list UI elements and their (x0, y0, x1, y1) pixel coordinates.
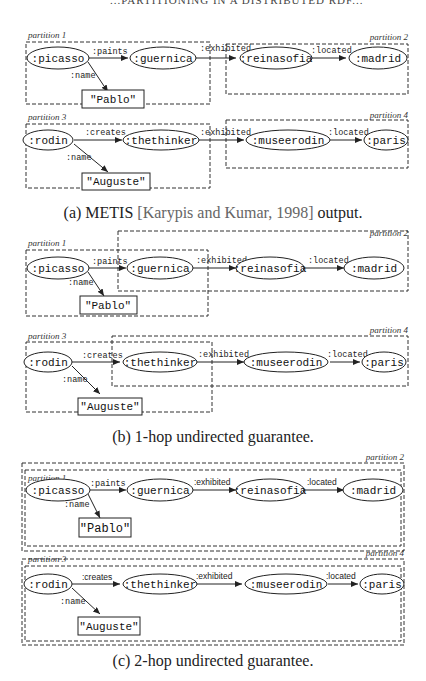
partition-label-4: partition 4 (365, 548, 405, 558)
node-paris: :paris (366, 135, 406, 147)
partition-label-2: partition 2 (369, 228, 409, 238)
edge-label-exhibited: :exhibited (198, 350, 249, 360)
node-guernica: :guernica (130, 263, 190, 275)
edge-label-located: :located (326, 571, 356, 581)
edge-label-creates: :creates (82, 572, 112, 582)
partition-label-2: partition 2 (369, 32, 409, 42)
edge-label-exhibited: :exhibited (194, 477, 231, 487)
caption-a-text: (a) METIS (64, 204, 138, 221)
node-picasso: :picasso (32, 53, 85, 65)
node-reinasofia: :reinasofia (240, 53, 313, 65)
partition-diagram: partition 1 partition 2 partition 3 part… (0, 0, 426, 681)
figure-b: partition 1 partition 2 partition 3 part… (24, 228, 408, 415)
partition-label-1: partition 1 (27, 30, 66, 40)
node-madrid: :madrid (350, 485, 396, 497)
node-picasso: :picasso (32, 263, 85, 275)
partition-label-3: partition 3 (27, 554, 67, 564)
node-reinasofia: :reinasofia (234, 485, 307, 497)
edge-label-creates: :creates (85, 128, 126, 138)
node-museerodin: :museerodin (252, 135, 325, 147)
caption-a-citation[interactable]: [Karypis and Kumar, 1998] (137, 204, 313, 221)
edge-label-name: :name (60, 597, 86, 607)
node-pablo: "Pablo" (90, 94, 136, 106)
figure-a: partition 1 partition 2 partition 3 part… (23, 30, 408, 190)
node-picasso: :picasso (32, 485, 85, 497)
edge-label-name: :name (68, 278, 94, 288)
figure-c: partition 2 partition 1 partition 4 part… (22, 452, 404, 645)
edge-label-name: :name (66, 153, 92, 163)
node-thethinker: :thethinker (124, 357, 197, 369)
node-paris: :paris (364, 357, 404, 369)
partition-label-2: partition 2 (365, 452, 405, 462)
edge-label-exhibited: :exhibited (196, 571, 233, 581)
node-museerodin: :museerodin (250, 579, 323, 591)
node-guernica: :guernica (133, 53, 193, 65)
edge-label-located: :located (308, 256, 349, 266)
partition-label-4: partition 4 (369, 110, 409, 120)
node-reinasofia: :reinasofia (234, 263, 307, 275)
caption-a-suffix: output. (314, 204, 363, 221)
node-rodin: :rodin (28, 135, 68, 147)
caption-b: (b) 1-hop undirected guarantee. (0, 428, 426, 446)
node-museerodin: :museerodin (250, 357, 323, 369)
node-auguste: "Auguste" (80, 401, 139, 413)
node-pablo: "Pablo" (85, 300, 131, 312)
caption-a: (a) METIS [Karypis and Kumar, 1998] outp… (0, 204, 426, 222)
node-guernica: :guernica (130, 485, 190, 497)
node-auguste: "Auguste" (86, 176, 145, 188)
edge-label-exhibited: :exhibited (200, 128, 251, 138)
node-rodin: :rodin (28, 579, 68, 591)
edge-label-name: :name (70, 71, 96, 81)
edge-label-located: :located (307, 477, 337, 487)
edge-label-paints: :paints (92, 47, 128, 57)
node-madrid: :madrid (351, 263, 397, 275)
edge-label-name: :name (62, 375, 88, 385)
edge-label-located: :located (328, 128, 369, 138)
edge-label-paints: :paints (92, 257, 128, 267)
node-pablo: "Pablo" (80, 522, 130, 536)
edge-label-paints: :paints (90, 479, 126, 489)
partition-label-4: partition 4 (369, 325, 409, 335)
node-paris: :paris (362, 579, 402, 591)
edge-label-located: :located (311, 46, 352, 56)
node-rodin: :rodin (28, 357, 68, 369)
partition-label-3: partition 3 (27, 331, 67, 341)
edge-label-located: :located (327, 350, 368, 360)
node-thethinker: :thethinker (124, 579, 197, 591)
node-auguste: "Auguste" (79, 621, 138, 633)
edge-label-creates: :creates (82, 351, 123, 361)
caption-c: (c) 2-hop undirected guarantee. (0, 652, 426, 670)
node-madrid: :madrid (355, 53, 401, 65)
partition-label-1: partition 1 (27, 238, 66, 248)
node-thethinker: :thethinker (125, 135, 198, 147)
edge-label-name: :name (64, 500, 90, 510)
partition-label-3: partition 3 (27, 112, 67, 122)
